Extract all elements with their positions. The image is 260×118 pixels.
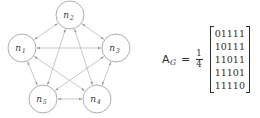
matrix-panel: AG = 1 4 0111110111110111110111110 <box>140 0 260 118</box>
matrix-symbol-subscript: G <box>170 58 176 67</box>
graph-edge <box>75 29 93 85</box>
matrix-row: 01111 <box>215 27 245 40</box>
nodes-group: n1n2n3n4n5 <box>8 1 130 113</box>
matrix-symbol-base: A <box>162 53 170 66</box>
equals-sign: = <box>181 53 190 66</box>
arrow-head-icon <box>98 47 101 49</box>
arrow-head-icon <box>55 88 58 91</box>
arrow-head-icon <box>34 37 37 40</box>
graph-edge <box>34 23 58 39</box>
graph-node-n2[interactable]: n2 <box>56 1 84 29</box>
fraction-numerator: 1 <box>195 49 202 58</box>
matrix-row: 10111 <box>215 40 245 53</box>
arrow-head-icon <box>101 56 104 59</box>
node-label-subscript: 1 <box>22 47 26 55</box>
graph-edge <box>102 62 111 85</box>
matrix-row: 11101 <box>215 66 245 79</box>
matrix-bracket-right <box>246 26 250 93</box>
graph-edge <box>48 29 66 85</box>
arrow-head-icon <box>75 29 77 32</box>
node-label-subscript: 4 <box>96 98 101 106</box>
arrow-head-icon <box>91 82 93 85</box>
arrow-head-icon <box>64 29 66 32</box>
arrow-head-icon <box>79 98 82 100</box>
arrow-head-icon <box>37 47 40 49</box>
graph-panel: n1n2n3n4n5 <box>0 0 140 118</box>
graph-node-n4[interactable]: n4 <box>83 85 111 113</box>
graph-diagram: n1n2n3n4n5 <box>0 0 140 118</box>
graph-node-n1[interactable]: n1 <box>8 34 36 62</box>
arrow-head-icon <box>82 88 85 91</box>
arrow-head-icon <box>55 23 58 26</box>
arrow-head-icon <box>109 62 111 65</box>
figure-root: n1n2n3n4n5 AG = 1 4 01111101111101111101… <box>0 0 260 118</box>
matrix-row: 11011 <box>215 53 245 66</box>
arrow-head-icon <box>102 82 104 85</box>
arrow-head-icon <box>34 56 37 59</box>
node-label-subscript: 2 <box>69 14 74 22</box>
graph-node-n3[interactable]: n3 <box>102 34 130 62</box>
arrow-head-icon <box>35 82 37 85</box>
matrix-rows: 0111110111110111110111110 <box>214 26 246 93</box>
graph-edge <box>82 24 104 40</box>
matrix-symbol: AG <box>162 53 176 66</box>
matrix-expression: AG = 1 4 0111110111110111110111110 <box>162 26 250 93</box>
matrix-row: 11110 <box>215 79 245 92</box>
arrow-head-icon <box>28 62 30 65</box>
node-label-subscript: 3 <box>116 47 120 55</box>
scalar-fraction: 1 4 <box>195 49 202 69</box>
fraction-denominator: 4 <box>195 60 202 69</box>
graph-node-n5[interactable]: n5 <box>29 85 57 113</box>
adjacency-matrix: 0111110111110111110111110 <box>210 26 250 93</box>
node-label-subscript: 5 <box>43 98 47 106</box>
arrow-head-icon <box>48 82 50 85</box>
graph-edge <box>28 62 38 86</box>
arrow-head-icon <box>58 98 61 100</box>
